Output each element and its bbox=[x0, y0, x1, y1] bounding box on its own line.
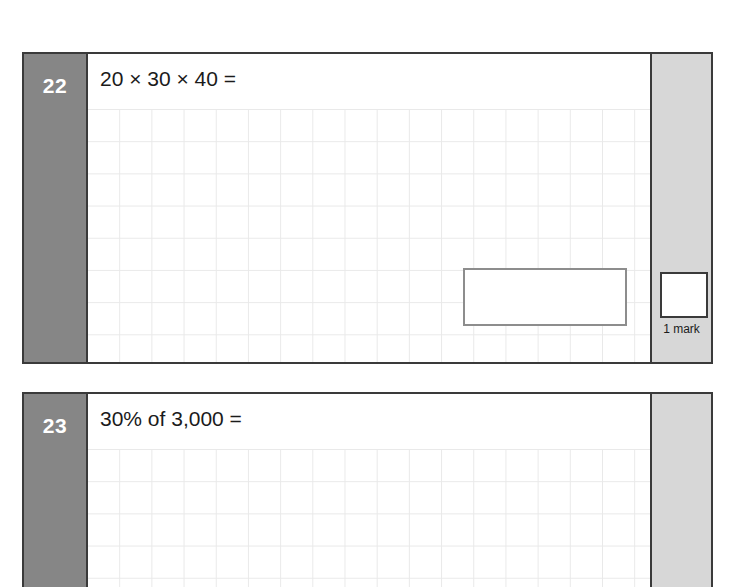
question-working-area-23[interactable]: 30% of 3,000 = bbox=[88, 394, 650, 587]
question-number-column-22: 22 bbox=[24, 54, 88, 362]
test-paper-page: 22 20 × 30 × 40 = 1 mark 23 30% of 3,000… bbox=[0, 0, 735, 587]
marks-column-22: 1 mark bbox=[650, 54, 711, 362]
question-text-23: 30% of 3,000 = bbox=[100, 407, 242, 431]
mark-award-box-22[interactable] bbox=[660, 272, 708, 318]
question-working-area-22[interactable]: 20 × 30 × 40 = bbox=[88, 54, 650, 362]
question-number-22: 22 bbox=[24, 74, 86, 98]
question-text-22: 20 × 30 × 40 = bbox=[100, 67, 236, 91]
answer-box-22[interactable] bbox=[463, 268, 627, 326]
question-number-23: 23 bbox=[24, 414, 86, 438]
question-block-22: 22 20 × 30 × 40 = 1 mark bbox=[22, 52, 713, 364]
squared-grid-23 bbox=[88, 449, 650, 587]
question-number-column-23: 23 bbox=[24, 394, 88, 587]
marks-column-23 bbox=[650, 394, 711, 587]
marks-label-22: 1 mark bbox=[652, 322, 711, 336]
question-block-23: 23 30% of 3,000 = bbox=[22, 392, 713, 587]
